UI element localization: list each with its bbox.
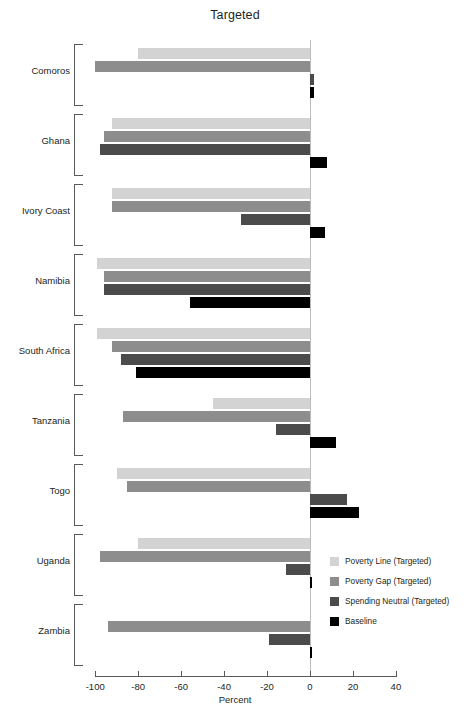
bar bbox=[310, 227, 325, 238]
legend-label: Poverty Gap (Targeted) bbox=[345, 576, 431, 586]
bar bbox=[190, 297, 310, 308]
category-group: Ghana bbox=[0, 110, 470, 180]
x-axis-title: Percent bbox=[0, 694, 470, 705]
legend-label: Poverty Line (Targeted) bbox=[345, 556, 431, 566]
x-tick-label: -60 bbox=[161, 681, 201, 692]
x-tick-mark bbox=[181, 671, 182, 677]
legend-swatch-icon bbox=[330, 557, 339, 566]
legend-item: Spending Neutral (Targeted) bbox=[330, 591, 470, 611]
x-tick-label: -100 bbox=[75, 681, 115, 692]
category-bars bbox=[0, 395, 470, 455]
category-bars bbox=[0, 325, 470, 385]
bar bbox=[138, 538, 310, 549]
bar bbox=[104, 131, 310, 142]
bar bbox=[310, 577, 312, 588]
bar bbox=[117, 468, 310, 479]
chart-container: Targeted ComorosGhanaIvory CoastNamibiaS… bbox=[0, 0, 470, 709]
legend-swatch-icon bbox=[330, 617, 339, 626]
category-group: Namibia bbox=[0, 250, 470, 320]
x-tick-mark bbox=[267, 671, 268, 677]
x-tick-mark bbox=[95, 671, 96, 677]
x-tick-label: 40 bbox=[376, 681, 416, 692]
category-bars bbox=[0, 45, 470, 105]
bar bbox=[269, 634, 310, 645]
bar bbox=[121, 354, 310, 365]
bar bbox=[310, 507, 359, 518]
bar bbox=[127, 481, 310, 492]
bar bbox=[100, 551, 310, 562]
bar bbox=[104, 271, 310, 282]
bar bbox=[112, 188, 310, 199]
bar bbox=[95, 61, 310, 72]
x-tick-mark bbox=[138, 671, 139, 677]
bar bbox=[138, 48, 310, 59]
x-tick-mark bbox=[396, 671, 397, 677]
legend-swatch-icon bbox=[330, 577, 339, 586]
category-bars bbox=[0, 115, 470, 175]
category-group: Togo bbox=[0, 460, 470, 530]
bar bbox=[310, 87, 314, 98]
bar bbox=[104, 284, 310, 295]
category-group: South Africa bbox=[0, 320, 470, 390]
x-tick-mark bbox=[353, 671, 354, 677]
x-axis-line bbox=[95, 676, 396, 677]
category-bars bbox=[0, 185, 470, 245]
bar bbox=[112, 118, 310, 129]
x-tick-label: 20 bbox=[333, 681, 373, 692]
legend-label: Baseline bbox=[345, 616, 377, 626]
legend-item: Poverty Gap (Targeted) bbox=[330, 571, 470, 591]
bar bbox=[310, 647, 312, 658]
x-tick-label: -40 bbox=[204, 681, 244, 692]
bar bbox=[276, 424, 310, 435]
chart-legend: Poverty Line (Targeted)Poverty Gap (Targ… bbox=[330, 551, 470, 631]
bar bbox=[213, 398, 310, 409]
bar bbox=[286, 564, 310, 575]
legend-item: Poverty Line (Targeted) bbox=[330, 551, 470, 571]
bar bbox=[97, 328, 310, 339]
legend-swatch-icon bbox=[330, 597, 339, 606]
bar bbox=[241, 214, 310, 225]
bar bbox=[310, 157, 327, 168]
x-tick-mark bbox=[224, 671, 225, 677]
x-tick-label: -80 bbox=[118, 681, 158, 692]
bar bbox=[108, 621, 310, 632]
bar bbox=[310, 74, 314, 85]
x-tick-label: 0 bbox=[290, 681, 330, 692]
category-group: Comoros bbox=[0, 40, 470, 110]
bar bbox=[136, 367, 310, 378]
x-tick-mark bbox=[310, 671, 311, 677]
legend-item: Baseline bbox=[330, 611, 470, 631]
category-group: Tanzania bbox=[0, 390, 470, 460]
bar bbox=[97, 258, 310, 269]
bar bbox=[123, 411, 310, 422]
category-bars bbox=[0, 255, 470, 315]
x-tick-label: -20 bbox=[247, 681, 287, 692]
category-bars bbox=[0, 465, 470, 525]
legend-label: Spending Neutral (Targeted) bbox=[345, 596, 449, 606]
bar bbox=[310, 437, 336, 448]
category-group: Ivory Coast bbox=[0, 180, 470, 250]
bar bbox=[310, 494, 347, 505]
bar bbox=[112, 201, 310, 212]
bar bbox=[100, 144, 310, 155]
bar bbox=[112, 341, 310, 352]
